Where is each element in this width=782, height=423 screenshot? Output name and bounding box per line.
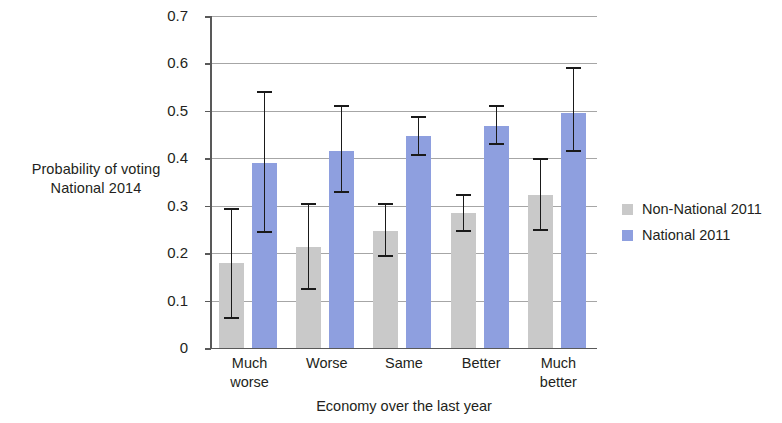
error-bar-cap-bottom (301, 288, 316, 290)
error-bar (341, 105, 342, 193)
error-bar-cap-bottom (489, 143, 504, 145)
bar-national-2011 (406, 136, 431, 348)
y-tick-label: 0.1 (148, 293, 188, 308)
error-bar-cap-top (224, 208, 239, 210)
error-bar (418, 116, 419, 156)
error-bar-cap-bottom (533, 229, 548, 231)
x-tick-label: Muchbetter (513, 354, 603, 392)
error-bar-cap-top (566, 67, 581, 69)
error-bar (496, 105, 497, 145)
y-axis-title: Probability of voting National 2014 (8, 160, 184, 198)
bar-non-national-2011 (451, 213, 476, 348)
legend-label-non-national-2011: Non-National 2011 (642, 201, 762, 217)
error-bar (231, 208, 232, 319)
x-tick-label-line: worse (205, 373, 295, 392)
y-tick-label: 0 (148, 340, 188, 355)
x-tick-label-line: better (513, 373, 603, 392)
legend-swatch-national-2011 (622, 230, 633, 241)
error-bar-cap-bottom (411, 154, 426, 156)
bar-national-2011 (484, 126, 509, 348)
chart-figure: Probability of voting National 2014 00.1… (0, 0, 782, 423)
y-tick-label: 0.2 (148, 245, 188, 260)
error-bar-cap-bottom (224, 317, 239, 319)
error-bar (308, 203, 309, 290)
plot-area (211, 16, 597, 348)
y-tick-label: 0.3 (148, 198, 188, 213)
bar-group (288, 16, 365, 348)
y-tick-label: 0.7 (148, 8, 188, 23)
error-bar-cap-top (411, 116, 426, 118)
bar-group (520, 16, 597, 348)
y-tick-label: 0.6 (148, 55, 188, 70)
error-bar-cap-top (533, 158, 548, 160)
error-bar (540, 158, 541, 231)
error-bar (463, 194, 464, 232)
y-tick-label: 0.5 (148, 103, 188, 118)
error-bar-cap-top (257, 91, 272, 93)
error-bar-cap-top (301, 203, 316, 205)
error-bar (573, 67, 574, 152)
legend-item-non-national-2011: Non-National 2011 (622, 196, 780, 222)
error-bar-cap-bottom (257, 231, 272, 233)
bar-group (443, 16, 520, 348)
legend-label-national-2011: National 2011 (642, 227, 730, 243)
y-tick-label: 0.4 (148, 150, 188, 165)
x-tick-label-line: Much (513, 354, 603, 373)
legend: Non-National 2011 National 2011 (622, 196, 780, 248)
legend-swatch-non-national-2011 (622, 204, 633, 215)
error-bar-cap-bottom (334, 191, 349, 193)
error-bar-cap-top (334, 105, 349, 107)
bar-group (365, 16, 442, 348)
error-bar (385, 203, 386, 257)
bar-group (211, 16, 288, 348)
error-bar-cap-top (378, 203, 393, 205)
error-bar-cap-bottom (378, 255, 393, 257)
error-bar-cap-top (456, 194, 471, 196)
y-axis-title-line-2: National 2014 (8, 179, 184, 198)
error-bar-cap-top (489, 105, 504, 107)
x-axis-title: Economy over the last year (211, 398, 597, 414)
error-bar (264, 91, 265, 232)
legend-item-national-2011: National 2011 (622, 222, 780, 248)
error-bar-cap-bottom (566, 150, 581, 152)
error-bar-cap-bottom (456, 230, 471, 232)
